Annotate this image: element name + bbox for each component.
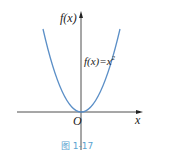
coordinate-plot — [0, 0, 191, 159]
y-axis-arrow-icon — [79, 11, 83, 18]
curve-label: f(x)=x2 — [84, 55, 115, 67]
x-axis-label: x — [135, 114, 140, 126]
curve-label-text: f(x)=x — [84, 55, 112, 67]
origin-label: O — [73, 115, 82, 127]
y-axis-label: f(x) — [60, 12, 77, 24]
figure-caption: 图 1-17 — [61, 142, 93, 151]
curve-label-exponent: 2 — [112, 54, 116, 62]
parabola-curve — [43, 29, 120, 112]
